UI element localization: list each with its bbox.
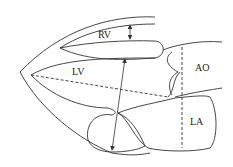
label-rv: RV: [98, 29, 112, 40]
lv-long-axis-dashed: [31, 75, 168, 97]
lv-diameter-arrow: [112, 59, 125, 150]
label-la: LA: [190, 116, 204, 127]
label-ao: AO: [195, 62, 209, 73]
aorta-wall: [163, 42, 222, 97]
heart-diagram: RV LV AO LA: [0, 0, 233, 167]
lv-wall: [31, 58, 155, 115]
rv-septum-top: [60, 41, 163, 60]
label-lv: LV: [72, 66, 85, 77]
